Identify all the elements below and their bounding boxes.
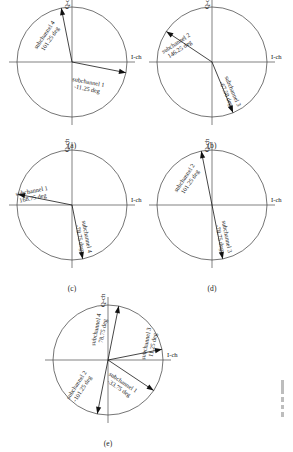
vector-arrowhead	[146, 385, 153, 391]
q-axis-label: Q-ch	[63, 0, 70, 9]
vector-label: subchannel 2101.25 deg	[172, 162, 202, 197]
panel-e: I-chQ-chsubchannel 478.75 degsubchannel …	[27, 279, 189, 452]
q-axis-label: Q-ch	[203, 138, 210, 152]
vector-label: subchannel 3-78.75 deg	[214, 220, 234, 255]
vector-line	[72, 62, 126, 73]
panel-caption-e: (e)	[27, 439, 189, 448]
vector-arrowhead	[96, 407, 101, 414]
vector-arrowhead	[166, 31, 173, 37]
vector-arrowhead	[115, 306, 120, 313]
q-axis-label: Q-ch	[203, 0, 210, 9]
panel-d: I-chQ-chsubchannel 2101.25 degsubchannel…	[131, 124, 293, 302]
vector-arrowhead	[119, 69, 126, 74]
vector-arrowhead	[79, 252, 84, 259]
i-axis-label: I-ch	[271, 196, 282, 203]
vector-line	[108, 306, 119, 360]
vector-label: subchannel 2-101.25 deg	[64, 369, 93, 404]
vector-arrowhead	[155, 348, 162, 353]
vector-line	[97, 360, 108, 414]
vector-label: subchannel 3-67.50 deg	[217, 75, 243, 110]
vector-arrowhead	[219, 252, 224, 259]
i-axis-label: I-ch	[167, 351, 178, 358]
page-edge-artifact	[281, 380, 284, 422]
vector-label: subchannel 2146.25 deg	[160, 31, 195, 60]
vector-label: subchannel 1-33.75 deg	[104, 370, 139, 400]
i-axis-label: I-ch	[271, 53, 282, 60]
vector-label: subchannel 478.75 deg	[89, 313, 109, 348]
q-axis-label: Q-ch	[63, 138, 70, 152]
vector-label: subchannel 1-11.25 deg	[71, 75, 106, 95]
vector-label: subchannel 4-78.75 deg	[74, 220, 94, 255]
vector-line	[201, 151, 212, 205]
vector-label: subchannel 4101.25 deg	[32, 19, 62, 54]
q-axis-label: Q-ch	[99, 293, 106, 307]
vector-label: subchannel 311.25 deg	[139, 327, 159, 362]
vector-line	[61, 8, 72, 62]
